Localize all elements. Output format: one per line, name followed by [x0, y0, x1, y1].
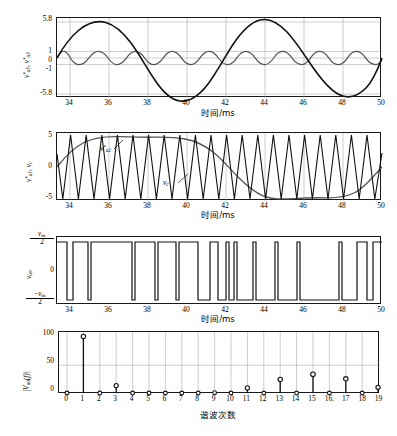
- panel1-ytick-5p8: 5.8: [28, 14, 52, 23]
- panel4-xtick-1: 1: [74, 394, 90, 403]
- panel3-plot-area: [56, 236, 381, 304]
- panel4-xtick-5: 5: [140, 394, 156, 403]
- panel4-plot-area: [58, 331, 379, 393]
- panel3-ytick-0: 0: [30, 265, 54, 274]
- panel2-plot-area: [56, 132, 381, 200]
- panel1-xtick-38: 38: [136, 98, 158, 107]
- panel4-xtick-2: 2: [91, 394, 107, 403]
- panel-reference-waveforms: v*a1, v*a3 5.8 1 0 -1 -5.8: [0, 0, 397, 112]
- panel4-markers: [65, 334, 380, 395]
- panel4-xtick-9: 9: [206, 394, 222, 403]
- panel4-xtick-0: 0: [58, 394, 74, 403]
- panel2-xtick-48: 48: [331, 201, 353, 210]
- panel4-xtick-11: 11: [238, 394, 254, 403]
- panel-harmonic-spectrum: |Vao(f)| 100 50 0: [0, 322, 397, 436]
- panel1-gridlines: [57, 18, 382, 98]
- panel2-xtick-46: 46: [292, 201, 314, 210]
- panel1-ytick-neg1: -1: [28, 64, 52, 73]
- panel4-xtick-16: 16.: [320, 394, 338, 403]
- panel2-xtick-34: 34: [58, 201, 80, 210]
- panel-pwm-output: vao vdc 2 0 −vdc 2 34 36 38 40 42 44 46 …: [0, 217, 397, 322]
- panel4-xtick-19: 19: [371, 394, 387, 403]
- panel4-xtick-18: 18: [354, 394, 370, 403]
- panel4-xtick-4: 4: [124, 394, 140, 403]
- panel2-annotation-carrier: vc: [163, 178, 169, 187]
- panel4-xtick-3: 3: [107, 394, 123, 403]
- panel3-xtick-48: 48: [331, 305, 353, 314]
- panel1-xtick-34: 34: [58, 98, 80, 107]
- panel3-xtick-34: 34: [58, 305, 80, 314]
- panel2-ytick-0: 0: [30, 161, 52, 170]
- panel3-ytick-vdc-over-2: vdc 2: [30, 231, 54, 247]
- panel2-ytick-5: 5: [30, 130, 52, 139]
- panel3-xtick-36: 36: [97, 305, 119, 314]
- panel4-ytick-0: 0: [26, 384, 54, 393]
- panel4-stems: [67, 336, 378, 393]
- panel1-svg: [57, 18, 382, 98]
- panel4-xtick-10: 10: [222, 394, 238, 403]
- panel2-ytick-neg5: -5: [28, 192, 52, 201]
- panel2-carrier-leader-line: [178, 174, 188, 183]
- panel3-xtick-38: 38: [136, 305, 158, 314]
- panel1-xtick-46: 46: [292, 98, 314, 107]
- panel2-xtick-50: 50: [370, 201, 392, 210]
- panel3-xtick-50: 50: [370, 305, 392, 314]
- panel4-xtick-7: 7: [173, 394, 189, 403]
- panel4-xtick-12: 12: [255, 394, 271, 403]
- panel1-ytick-0: 0: [28, 55, 52, 64]
- panel4-xtick-14: 14: [288, 394, 304, 403]
- panel1-xtick-48: 48: [331, 98, 353, 107]
- panel4-xtick-13: 13: [271, 394, 287, 403]
- panel3-svg: [57, 237, 382, 305]
- figure-container: v*a1, v*a3 5.8 1 0 -1 -5.8: [0, 0, 397, 436]
- panel2-xtick-38: 38: [136, 201, 158, 210]
- panel1-xtick-50: 50: [370, 98, 392, 107]
- panel1-plot-area: [56, 17, 381, 97]
- panel4-svg: [59, 332, 380, 394]
- panel1-ytick-1: 1: [28, 46, 52, 55]
- panel3-ytick-neg-vdc-over-2: −vdc 2: [26, 291, 54, 307]
- panel4-ytick-50: 50: [26, 356, 54, 365]
- panel3-pwm-trace: [57, 242, 382, 300]
- panel3-xtick-46: 46: [292, 305, 314, 314]
- panel1-ytick-neg5p8: -5.8: [26, 88, 52, 97]
- panel4-xtick-15: 15: [304, 394, 320, 403]
- panel4-x-axis-label: 谐波次数: [158, 408, 278, 420]
- panel4-xtick-17: 17: [338, 394, 354, 403]
- panel-carrier-comparison: v*a1, vc 5 0 -5: [0, 112, 397, 217]
- panel1-xtick-36: 36: [97, 98, 119, 107]
- panel4-xtick-8: 8: [189, 394, 205, 403]
- panel4-ytick-100: 100: [26, 328, 54, 337]
- panel4-gridlines: [59, 332, 380, 394]
- panel4-xtick-6: 6: [156, 394, 172, 403]
- panel2-xtick-36: 36: [97, 201, 119, 210]
- panel2-annotation-reference: v*a1: [100, 144, 111, 153]
